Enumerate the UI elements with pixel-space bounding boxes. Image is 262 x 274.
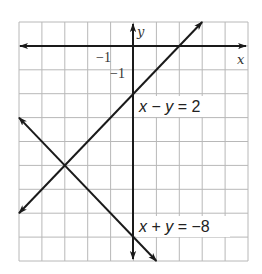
eq2-rhs: = −8 <box>173 218 210 235</box>
tick-label-y-neg-one: −1 <box>110 66 125 81</box>
tick-label-x-neg-one: −1 <box>96 50 111 65</box>
coordinate-graph: x y −1 −1 x − y = 2 x + y = −8 <box>0 0 262 274</box>
y-axis-label: y <box>136 24 145 39</box>
x-axis-label: x <box>237 52 245 67</box>
equation-label-x-minus-y: x − y = 2 <box>138 98 200 115</box>
equation-label-x-plus-y: x + y = −8 <box>138 218 210 235</box>
eq1-op: − <box>147 98 165 115</box>
eq2-op: + <box>147 218 165 235</box>
eq1-rhs: = 2 <box>173 98 200 115</box>
